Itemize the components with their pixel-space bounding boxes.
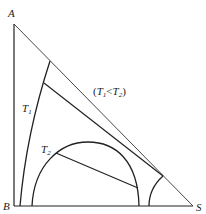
axis-as-hypotenuse — [14, 24, 193, 206]
t1-binodal-right — [149, 176, 163, 206]
t2-tie-line — [56, 153, 138, 188]
vertex-label-a: A — [7, 7, 15, 19]
vertex-label-s: S — [196, 201, 202, 213]
curve-label-t2: T2 — [41, 143, 51, 157]
curve-label-t1: T1 — [22, 102, 32, 116]
ternary-diagram: A B S T1 T2 (T1<T2) — [0, 0, 206, 214]
vertex-label-b: B — [3, 200, 10, 212]
temperature-relation-annotation: (T1<T2) — [93, 85, 126, 99]
